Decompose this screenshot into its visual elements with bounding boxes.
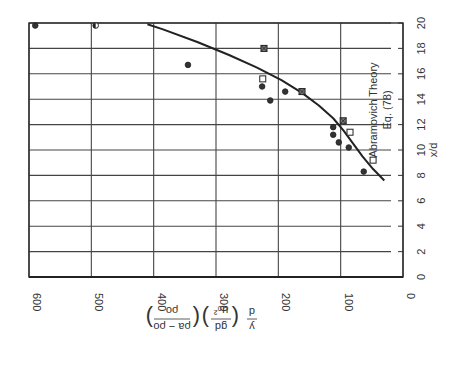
ylabel-paren-close-3: ) [146,306,153,331]
x-tick-label: 2 [415,249,427,255]
y-tick-label: 100 [343,293,355,311]
x-tick-label: 12 [415,118,427,130]
ylabel-rho0: ρo [166,305,178,317]
marker-filled-circle [336,140,342,146]
marker-filled-circle [185,62,191,68]
marker-filled-circle [267,98,273,104]
x-tick-label: 20 [415,17,427,29]
marker-filled-circle [32,23,38,29]
ylabel-d: d [249,306,255,318]
y-tick-label: 500 [93,293,105,311]
ylabel-paren-open-2: ( [231,306,239,331]
x-tick-label: 16 [415,68,427,80]
marker-filled-circle [282,89,288,95]
x-tick-label: 8 [415,172,427,178]
x-tick-label: 10 [415,144,427,156]
marker-filled-circle [330,132,336,138]
ylabel-y: y [249,321,255,333]
marker-filled-circle [330,124,336,130]
ylabel-rho-diff: ρa − ρo [153,321,190,333]
ylabel-gd: gd [215,321,227,333]
x-tick-label: 18 [415,42,427,54]
x-tick-label: 0 [415,274,427,280]
x-tick-label: 4 [415,223,427,229]
marker-filled-circle [259,84,265,90]
annotation-line2: Eq. (78) [381,90,393,129]
y-tick-label: 600 [31,293,43,311]
x-axis-label: x/d [427,143,439,158]
x-tick-label: 14 [415,93,427,105]
ylabel-paren-open-3: ( [192,306,200,331]
y-tick-label: 0 [405,293,417,299]
tick-labels: 024681012141618200100200300400500600 [31,17,427,311]
marker-filled-circle [346,145,352,151]
chart: 024681012141618200100200300400500600 Abr… [0,0,453,372]
marker-filled-circle [361,169,367,175]
ylabel-paren-close-2: ) [202,306,209,331]
annotation-line1: Abramovich Theory [367,62,379,158]
ylabel-u0sq: u₀² [213,305,228,317]
x-tick-label: 6 [415,198,427,204]
marker-open-square [347,129,353,135]
y-tick-label: 200 [280,293,292,311]
theory-annotation: Abramovich Theory Eq. (78) [367,62,393,158]
marker-open-square [260,76,266,82]
